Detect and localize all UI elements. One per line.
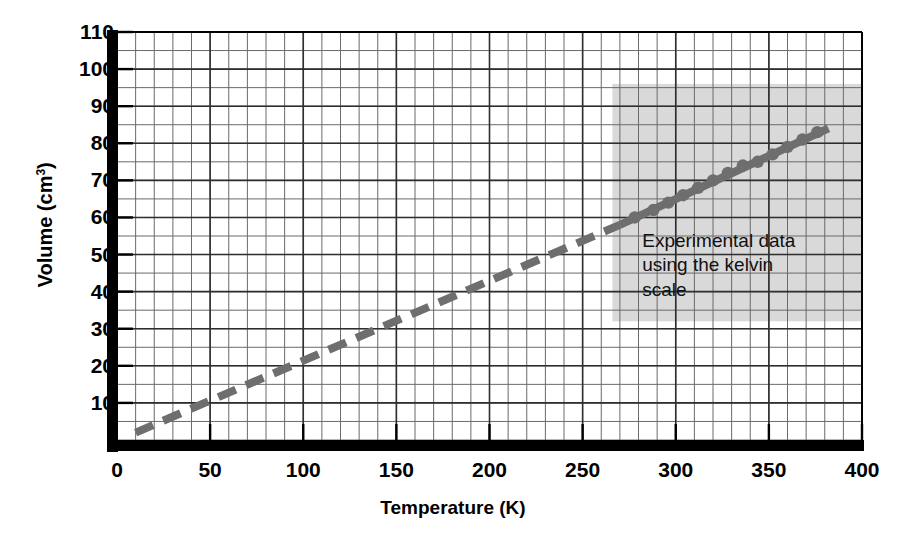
- x-axis-title: Temperature (K): [0, 497, 906, 519]
- data-point: [722, 167, 734, 179]
- data-point: [629, 211, 641, 223]
- data-point: [677, 189, 689, 201]
- data-point: [692, 182, 704, 194]
- data-point: [647, 204, 659, 216]
- data-point: [737, 159, 749, 171]
- chart-container: Volume (cm3) 102030405060708090100110 05…: [0, 0, 906, 533]
- annotation-experimental-data: Experimental data using the kelvin scale: [642, 229, 795, 302]
- data-point: [752, 156, 764, 168]
- data-point: [781, 141, 793, 153]
- data-point: [707, 174, 719, 186]
- data-point: [796, 133, 808, 145]
- data-point: [811, 126, 823, 138]
- data-point: [766, 148, 778, 160]
- data-point: [662, 196, 674, 208]
